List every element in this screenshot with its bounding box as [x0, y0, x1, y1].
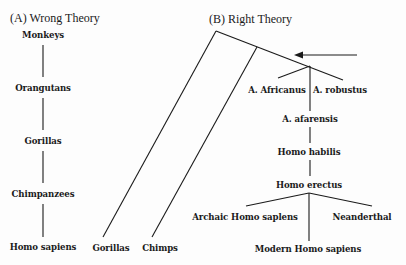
- node-homo-habilis: Homo habilis: [278, 147, 341, 157]
- node-orangutans: Orangutans: [15, 83, 71, 93]
- node-archaic-homo-sapiens: Archaic Homo saplens: [192, 212, 298, 222]
- leaf-chimps: Chimps: [142, 243, 178, 253]
- panel-b-title: (B) Right Theory: [209, 12, 292, 27]
- leaf-gorillas: Gorillas: [93, 243, 130, 253]
- node-a-africanus: A. Africanus: [248, 85, 306, 95]
- left-arrow-icon: [294, 52, 303, 59]
- node-neanderthal: Neanderthal: [332, 212, 391, 222]
- node-homo-sapiens: Homo sapiens: [10, 242, 77, 252]
- branch-archaic: [246, 193, 309, 206]
- node-gorillas: Gorillas: [25, 136, 62, 146]
- node-a-robustus: A. robustus: [313, 85, 367, 95]
- branch-neanderthal: [309, 193, 372, 206]
- panel-a-title: (A) Wrong Theory: [10, 11, 100, 26]
- node-a-afarensis: A. afarensis: [282, 114, 337, 124]
- node-homo-erectus: Homo erectus: [276, 180, 342, 190]
- node-modern-homo-sapiens: Modern Homo sapiens: [255, 244, 362, 254]
- evolution-diagram: (A) Wrong Theory Monkeys Orangutans Gori…: [0, 0, 406, 265]
- branch-a-africanus: [278, 66, 310, 78]
- branch-chimps: [152, 47, 257, 237]
- branch-gorillas: [103, 31, 216, 237]
- node-chimpanzees: Chimpanzees: [12, 189, 75, 199]
- node-monkeys: Monkeys: [22, 30, 64, 40]
